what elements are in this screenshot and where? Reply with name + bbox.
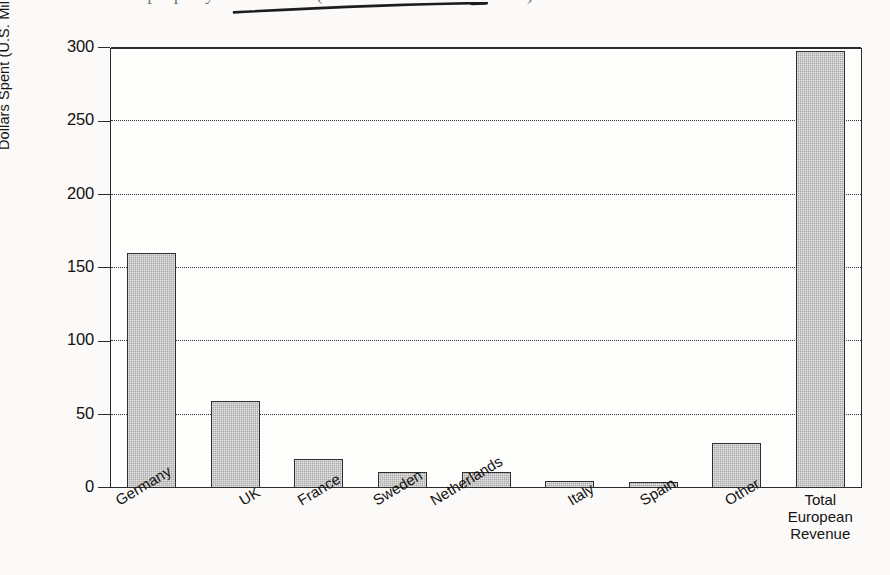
- x-label-line: Total: [804, 491, 836, 508]
- y-tick-mark: [98, 414, 110, 415]
- y-tick-label: 150: [67, 257, 94, 276]
- x-label-total-european-revenue: TotalEuropeanRevenue: [760, 492, 880, 542]
- y-tick-mark: [98, 487, 110, 488]
- y-tick-label: 200: [67, 184, 94, 203]
- y-tick-label: 50: [76, 404, 94, 423]
- y-tick-mark: [98, 121, 110, 122]
- y-tick-label: 250: [67, 110, 94, 129]
- cutoff-text: of the property of the 1995 (revenue and…: [96, 0, 568, 5]
- y-tick-mark: [98, 267, 110, 268]
- y-axis-ticks: 050100150200250300: [0, 0, 110, 488]
- x-label-line: European: [788, 508, 853, 525]
- x-axis-labels: GermanyUKFranceSwedenNetherlandsItalySpa…: [110, 490, 862, 575]
- y-tick-label: 300: [67, 37, 94, 56]
- y-tick-label: 0: [85, 477, 94, 496]
- bar-total-european-revenue: [796, 51, 845, 488]
- y-axis-title: Dollars Spent (U.S. Millions): [0, 0, 12, 150]
- x-label-line: Revenue: [790, 525, 850, 542]
- y-tick-mark: [98, 341, 110, 342]
- bar-series: [110, 48, 862, 488]
- bar-germany: [127, 253, 176, 488]
- y-tick-label: 100: [67, 330, 94, 349]
- scanned-cutoff-text-line: of the property of the 1995 (revenue and…: [0, 0, 890, 16]
- bar-uk: [211, 401, 260, 488]
- y-tick-mark: [98, 47, 110, 48]
- y-tick-mark: [98, 194, 110, 195]
